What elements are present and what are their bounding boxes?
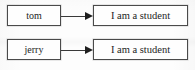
- source-node[interactable]: jerry: [7, 39, 61, 60]
- diagram-canvas: tom I am a student jerry I am a student: [0, 0, 195, 70]
- diagram-row: jerry I am a student: [0, 39, 195, 61]
- arrow-shaft: [61, 16, 86, 17]
- arrow-shaft: [61, 50, 86, 51]
- target-node[interactable]: I am a student: [93, 39, 188, 60]
- arrow-right-icon: [61, 49, 93, 52]
- arrow-head: [85, 12, 93, 20]
- arrow-head: [85, 46, 93, 54]
- diagram-row: tom I am a student: [0, 5, 195, 27]
- target-node[interactable]: I am a student: [93, 5, 188, 26]
- source-node[interactable]: tom: [7, 5, 61, 26]
- arrow-right-icon: [61, 15, 93, 18]
